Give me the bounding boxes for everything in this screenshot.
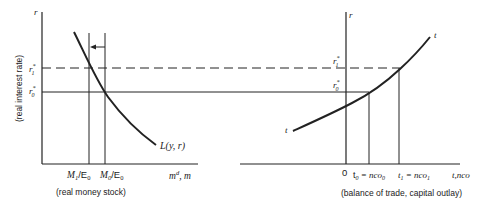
t0-label: t0 = nco0 xyxy=(353,170,385,181)
trade-curve-end-label: t xyxy=(434,30,437,40)
left-r0-label: r*0 xyxy=(29,85,36,98)
liquidity-curve xyxy=(74,32,156,145)
right-r1-label: r*1 xyxy=(333,55,340,68)
right-r0-label: r*0 xyxy=(333,79,340,92)
m0-label: M0/E0 xyxy=(99,169,123,181)
t1-label: t1 = nco1 xyxy=(398,170,430,181)
left-r1-label: r*1 xyxy=(29,63,36,76)
left-x-axis-caption: (real money stock) xyxy=(56,187,126,197)
right-y-axis-symbol: r xyxy=(349,10,353,20)
right-x-axis-symbol: t,nco xyxy=(452,170,470,180)
trade-curve-start-label: t xyxy=(285,125,288,135)
trade-balance-curve xyxy=(293,37,430,131)
left-x-axis-symbol: md, m xyxy=(169,169,191,181)
shift-arrow-head-icon xyxy=(90,45,96,50)
left-y-axis-symbol: r xyxy=(34,7,38,17)
right-panel: r r*1 r*0 t t 0 t0 = nco0 t1 = nco1 t,nc… xyxy=(240,10,470,198)
left-panel: r (real interest rate) r*1 r*0 L(y, r) M… xyxy=(14,7,198,197)
right-x-axis-caption: (balance of trade, capital outlay) xyxy=(341,188,462,198)
money-market-trade-diagram: r (real interest rate) r*1 r*0 L(y, r) M… xyxy=(0,0,482,207)
left-y-axis-caption: (real interest rate) xyxy=(14,55,24,122)
m1-label: M1/E0 xyxy=(66,169,90,181)
origin-label: 0 xyxy=(342,167,347,178)
liquidity-curve-label: L(y, r) xyxy=(159,140,186,152)
